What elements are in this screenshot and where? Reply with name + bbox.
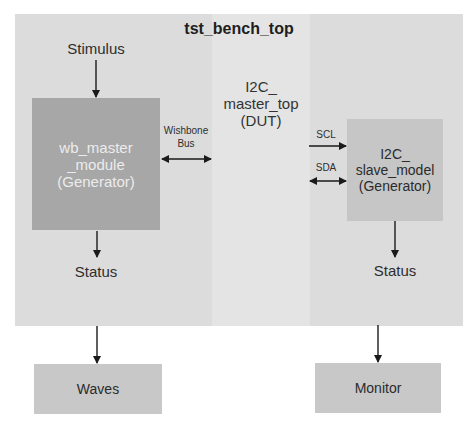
connector-arrows [0,0,472,425]
